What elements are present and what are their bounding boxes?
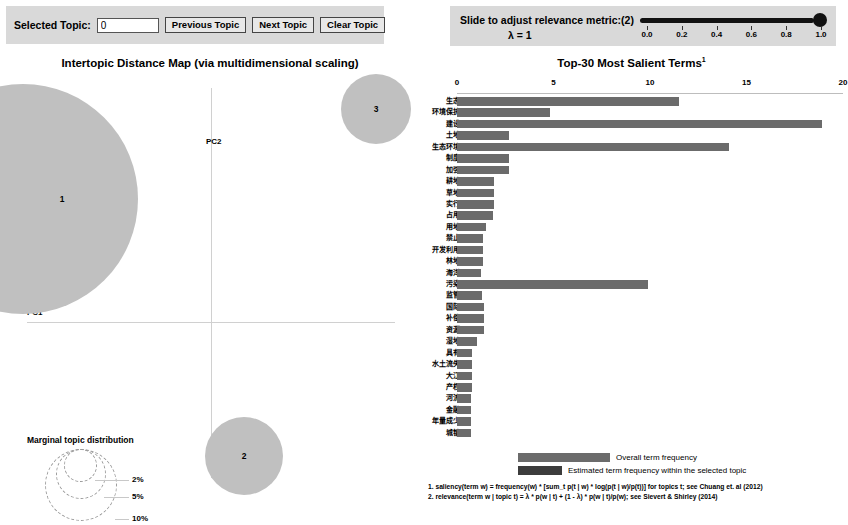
bar-overall-frequency[interactable] bbox=[457, 314, 484, 323]
bar-term-label[interactable]: 年量成少 bbox=[432, 416, 460, 427]
bar-row[interactable]: 水土流失 bbox=[420, 359, 843, 370]
bar-overall-frequency[interactable] bbox=[457, 360, 472, 369]
bar-overall-frequency[interactable] bbox=[457, 326, 484, 335]
bar-row[interactable]: 实行 bbox=[420, 199, 843, 210]
bar-overall-frequency[interactable] bbox=[457, 383, 472, 392]
slider-tick-label: 0.6 bbox=[746, 30, 757, 39]
barchart-title-footnote-ref: 1 bbox=[702, 56, 706, 63]
bar-overall-frequency[interactable] bbox=[457, 257, 483, 266]
bar-row[interactable]: 具有 bbox=[420, 348, 843, 359]
relevance-slider[interactable]: 0.00.20.40.60.81.0 bbox=[640, 12, 822, 42]
intertopic-distance-map: Intertopic Distance Map (via multidimens… bbox=[0, 52, 420, 510]
selected-topic-input[interactable] bbox=[97, 18, 159, 33]
bar-overall-frequency[interactable] bbox=[457, 177, 494, 186]
topic-bubble-2[interactable]: 2 bbox=[205, 417, 283, 495]
bar-row[interactable]: 占用 bbox=[420, 210, 843, 221]
marginal-line-10pct bbox=[115, 519, 129, 520]
bar-row[interactable]: 金融 bbox=[420, 405, 843, 416]
bar-row[interactable]: 建设 bbox=[420, 119, 843, 130]
bar-overall-frequency[interactable] bbox=[457, 143, 729, 152]
bar-row[interactable]: 湿地 bbox=[420, 336, 843, 347]
bar-overall-frequency[interactable] bbox=[457, 429, 471, 438]
clear-topic-button[interactable]: Clear Topic bbox=[320, 17, 385, 33]
bar-overall-frequency[interactable] bbox=[457, 246, 483, 255]
bar-overall-frequency[interactable] bbox=[457, 189, 494, 198]
slider-track[interactable] bbox=[640, 18, 814, 23]
marginal-topic-distribution-legend: Marginal topic distribution 2% 5% 10% bbox=[14, 435, 174, 525]
bar-row[interactable]: 年量成少 bbox=[420, 416, 843, 427]
bar-overall-frequency[interactable] bbox=[457, 269, 481, 278]
bar-row[interactable]: 生态 bbox=[420, 96, 843, 107]
footnote-relevance: 2. relevance(term w | topic t) = λ * p(w… bbox=[428, 492, 848, 502]
legend-row-overall: Overall term frequency bbox=[420, 452, 843, 465]
relevance-metric-text: Slide to adjust relevance metric: bbox=[460, 14, 621, 26]
bar-overall-frequency[interactable] bbox=[457, 211, 493, 220]
bar-row[interactable]: 制度 bbox=[420, 153, 843, 164]
bar-row[interactable]: 大江 bbox=[420, 371, 843, 382]
bar-row[interactable]: 监管 bbox=[420, 290, 843, 301]
previous-topic-button[interactable]: Previous Topic bbox=[165, 17, 246, 33]
barchart-footnotes: 1. saliency(term w) = frequency(w) * [su… bbox=[428, 482, 848, 502]
bar-row[interactable]: 环境保护 bbox=[420, 107, 843, 118]
marginal-line-2pct bbox=[95, 480, 129, 481]
bar-row[interactable]: 林地 bbox=[420, 256, 843, 267]
bar-row[interactable]: 污染 bbox=[420, 279, 843, 290]
bar-row[interactable]: 产权 bbox=[420, 382, 843, 393]
bar-term-label[interactable]: 生态环境 bbox=[432, 142, 460, 153]
bar-row[interactable]: 草地 bbox=[420, 188, 843, 199]
slider-tick-label: 1.0 bbox=[815, 30, 826, 39]
bar-row[interactable]: 耕地 bbox=[420, 176, 843, 187]
bar-axis-tick-label: 10 bbox=[646, 78, 655, 87]
bar-overall-frequency[interactable] bbox=[457, 97, 679, 106]
bar-overall-frequency[interactable] bbox=[457, 372, 472, 381]
bar-overall-frequency[interactable] bbox=[457, 223, 486, 232]
bar-overall-frequency[interactable] bbox=[457, 303, 484, 312]
bar-row[interactable]: 加强 bbox=[420, 165, 843, 176]
slider-tick-label: 0.2 bbox=[676, 30, 687, 39]
bar-overall-frequency[interactable] bbox=[457, 234, 483, 243]
relevance-footnote-ref: (2) bbox=[621, 14, 634, 26]
legend-row-estimated: Estimated term frequency within the sele… bbox=[420, 465, 843, 478]
bar-row[interactable]: 开发利用 bbox=[420, 245, 843, 256]
bar-overall-frequency[interactable] bbox=[457, 291, 482, 300]
topic-bubble-label-1: 1 bbox=[60, 194, 65, 204]
bar-row[interactable]: 生态环境 bbox=[420, 142, 843, 153]
bar-axis-tick-label: 0 bbox=[455, 78, 459, 87]
bar-overall-frequency[interactable] bbox=[457, 131, 509, 140]
barchart-title-text: Top-30 Most Salient Terms bbox=[557, 57, 702, 69]
legend-label-estimated-frequency: Estimated term frequency within the sele… bbox=[568, 465, 746, 476]
intertopic-map-title: Intertopic Distance Map (via multidimens… bbox=[0, 57, 420, 69]
bar-term-label[interactable]: 开发利用 bbox=[432, 245, 460, 256]
bar-overall-frequency[interactable] bbox=[457, 349, 472, 358]
bar-row[interactable]: 城镇 bbox=[420, 428, 843, 439]
bar-overall-frequency[interactable] bbox=[457, 337, 477, 346]
topic-bubble-1[interactable]: 1 bbox=[0, 84, 138, 314]
bar-row[interactable]: 补偿 bbox=[420, 313, 843, 324]
marginal-percent-10: 10% bbox=[132, 514, 148, 523]
bar-row[interactable]: 土地 bbox=[420, 130, 843, 141]
bar-row[interactable]: 用地 bbox=[420, 222, 843, 233]
bar-term-label[interactable]: 环境保护 bbox=[432, 107, 460, 118]
bar-row[interactable]: 国际 bbox=[420, 302, 843, 313]
bar-overall-frequency[interactable] bbox=[457, 394, 471, 403]
bar-overall-frequency[interactable] bbox=[457, 406, 471, 415]
bar-overall-frequency[interactable] bbox=[457, 166, 509, 175]
barchart-legend: Overall term frequency Estimated term fr… bbox=[420, 452, 843, 478]
legend-swatch-overall-frequency bbox=[518, 453, 610, 462]
bar-row[interactable]: 禁止 bbox=[420, 233, 843, 244]
next-topic-button[interactable]: Next Topic bbox=[252, 17, 314, 33]
bar-overall-frequency[interactable] bbox=[457, 154, 509, 163]
topic-bubble-3[interactable]: 3 bbox=[341, 74, 411, 144]
bar-overall-frequency[interactable] bbox=[457, 417, 471, 426]
bar-term-label[interactable]: 水土流失 bbox=[432, 359, 460, 370]
pc2-axis-label: PC2 bbox=[206, 137, 222, 146]
bar-overall-frequency[interactable] bbox=[457, 280, 648, 289]
bar-overall-frequency[interactable] bbox=[457, 120, 822, 129]
slider-handle[interactable] bbox=[813, 13, 827, 27]
bar-overall-frequency[interactable] bbox=[457, 200, 494, 209]
y-axis-line bbox=[211, 88, 212, 478]
bar-overall-frequency[interactable] bbox=[457, 108, 550, 117]
bar-row[interactable]: 资源 bbox=[420, 325, 843, 336]
bar-row[interactable]: 海洋 bbox=[420, 268, 843, 279]
bar-row[interactable]: 河流 bbox=[420, 393, 843, 404]
